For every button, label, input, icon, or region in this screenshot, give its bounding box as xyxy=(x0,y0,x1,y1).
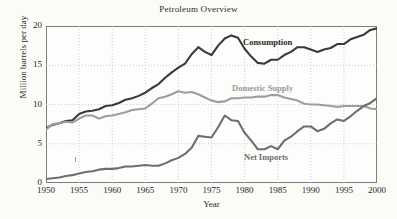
x-tick-label: 2000 xyxy=(357,185,397,195)
x-axis-title: Year xyxy=(46,199,377,209)
series-label-net-imports: Net Imports xyxy=(244,152,288,162)
series-label-domestic-supply: Domestic Supply xyxy=(232,83,293,93)
y-tick-label: 5 xyxy=(20,138,42,148)
chart-page: Petroleum Overview Million barrels per d… xyxy=(0,0,397,219)
y-tick-label: 15 xyxy=(20,59,42,69)
y-tick-label: 10 xyxy=(20,99,42,109)
chart-title: Petroleum Overview xyxy=(0,4,397,14)
y-tick-label: 20 xyxy=(20,20,42,30)
series-label-consumption: Consumption xyxy=(243,37,292,47)
scan-artifact-mark xyxy=(75,157,76,162)
plot-canvas xyxy=(46,26,377,183)
